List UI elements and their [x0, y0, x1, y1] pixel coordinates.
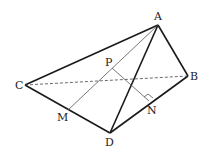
edge-cb-hidden: [25, 76, 188, 85]
label-d: D: [105, 136, 114, 149]
label-n: N: [147, 104, 157, 117]
segment-pn: [112, 68, 149, 101]
tetrahedron-diagram: A B C D M N P: [0, 0, 210, 157]
edge-ab: [158, 25, 188, 76]
label-b: B: [190, 70, 198, 83]
label-m: M: [57, 111, 68, 124]
label-c: C: [15, 79, 23, 92]
edge-cd: [25, 85, 110, 133]
label-p: P: [105, 56, 113, 69]
label-a: A: [153, 10, 163, 23]
edge-ac: [25, 25, 158, 85]
